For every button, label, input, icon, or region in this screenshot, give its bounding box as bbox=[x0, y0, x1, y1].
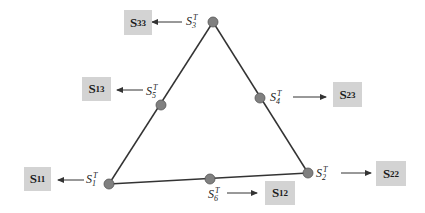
label-s4t: S4T bbox=[270, 90, 281, 106]
node-s4 bbox=[255, 93, 265, 103]
box-s11: S11 bbox=[24, 167, 51, 191]
box-s12: S12 bbox=[265, 181, 295, 205]
label-s2t: S2T bbox=[316, 166, 327, 182]
node-s3 bbox=[208, 17, 218, 27]
box-s23: S23 bbox=[333, 82, 362, 107]
label-s3t: S3T bbox=[186, 14, 197, 30]
triangle-diagram: S3T S5T S4T S1T S2T S6T S33 S13 S23 S11 … bbox=[0, 0, 425, 213]
box-s33: S33 bbox=[124, 10, 152, 35]
box-s13: S13 bbox=[82, 77, 111, 101]
label-s5t: S5T bbox=[146, 84, 157, 100]
label-s6t: S6T bbox=[208, 187, 219, 203]
node-s5 bbox=[156, 100, 166, 110]
node-s1 bbox=[104, 179, 114, 189]
box-s22: S22 bbox=[376, 161, 406, 186]
node-s2 bbox=[303, 168, 313, 178]
label-s1t: S1T bbox=[86, 172, 97, 188]
node-s6 bbox=[205, 174, 215, 184]
